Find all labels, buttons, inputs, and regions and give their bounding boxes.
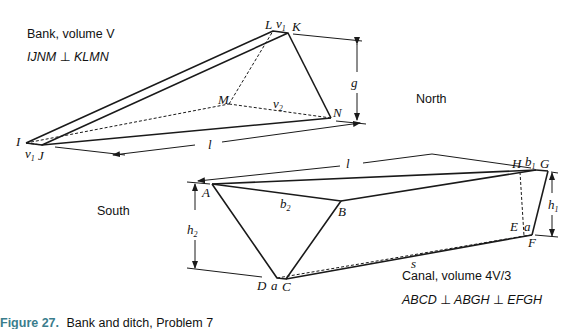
a-right-label: a xyxy=(524,219,531,234)
canal-title: Canal, volume 4V/3 xyxy=(402,269,511,283)
point-A: A xyxy=(201,185,210,200)
point-N: N xyxy=(332,105,343,120)
a-bottom-label: a xyxy=(271,278,278,293)
s-label: s xyxy=(411,256,416,271)
point-F: F xyxy=(527,235,537,250)
figure-caption: Figure 27. Bank and ditch, Problem 7 xyxy=(0,316,213,329)
h1-label: h1 xyxy=(548,197,559,214)
v1-top-label: v1 xyxy=(276,16,286,33)
canal-front-face xyxy=(212,184,341,279)
point-D: D xyxy=(256,278,267,293)
bank-title: Bank, volume V xyxy=(27,27,115,41)
point-C: C xyxy=(282,279,291,294)
g-ext-bottom xyxy=(336,121,366,124)
b1-label: b1 xyxy=(525,154,536,171)
caption-text: Bank and ditch, Problem 7 xyxy=(67,316,214,329)
g-label: g xyxy=(351,75,358,90)
g-ext-top xyxy=(293,34,362,41)
bank-top-ridge xyxy=(26,31,288,145)
edge-KN xyxy=(288,33,331,118)
h1-ext-bottom xyxy=(535,235,558,237)
bank-and-canal-diagram: Bank, volume V IJNM ⊥ KLMN North South C… xyxy=(0,0,576,329)
point-H: H xyxy=(511,156,522,171)
bank-relation: IJNM ⊥ KLMN xyxy=(27,50,110,64)
canal-relation: ABCD ⊥ ABGH ⊥ EFGH xyxy=(401,293,543,307)
point-L: L xyxy=(264,17,272,32)
south-label: South xyxy=(97,204,130,218)
h2-ext-top xyxy=(187,182,210,184)
l-bank-arrow-left xyxy=(113,145,195,155)
h2-label: h2 xyxy=(187,222,198,239)
h2-ext-bottom xyxy=(187,268,262,277)
l-canal-label: l xyxy=(346,156,350,171)
point-E: E xyxy=(509,219,518,234)
point-K: K xyxy=(291,19,302,34)
h1-ext-top xyxy=(551,172,558,173)
point-J: J xyxy=(38,148,45,163)
edge-ML-hidden xyxy=(229,31,273,104)
l-bank-label: l xyxy=(208,137,212,152)
v1-bottom-label: v1 xyxy=(25,146,35,163)
point-G: G xyxy=(540,156,550,171)
point-M: M xyxy=(217,92,230,107)
caption-prefix: Figure 27. xyxy=(0,316,59,329)
point-I: I xyxy=(15,134,21,149)
l-canal-line-right xyxy=(363,154,432,163)
point-B: B xyxy=(338,204,346,219)
edge-GF xyxy=(532,171,548,235)
v2-label: v2 xyxy=(273,96,283,113)
l-bank-ext xyxy=(55,147,125,155)
b2-label: b2 xyxy=(280,196,291,213)
north-label: North xyxy=(416,92,447,106)
